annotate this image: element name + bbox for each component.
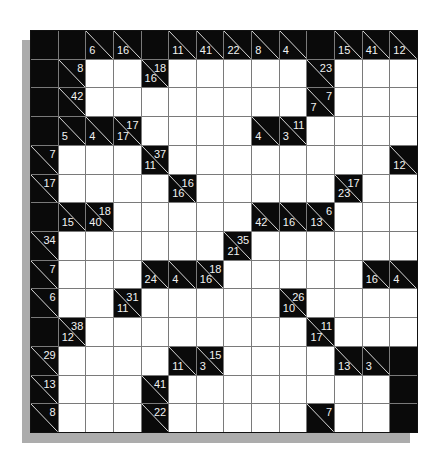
entry-cell[interactable] xyxy=(169,232,196,260)
entry-cell[interactable] xyxy=(169,117,196,145)
entry-cell[interactable] xyxy=(280,261,307,289)
entry-cell[interactable] xyxy=(114,88,141,116)
entry-cell[interactable] xyxy=(59,261,86,289)
entry-cell[interactable] xyxy=(59,146,86,174)
entry-cell[interactable] xyxy=(252,60,279,88)
entry-cell[interactable] xyxy=(390,117,417,145)
entry-cell[interactable] xyxy=(197,404,224,432)
entry-cell[interactable] xyxy=(363,60,390,88)
entry-cell[interactable] xyxy=(114,376,141,404)
entry-cell[interactable] xyxy=(114,404,141,432)
entry-cell[interactable] xyxy=(59,232,86,260)
entry-cell[interactable] xyxy=(252,376,279,404)
entry-cell[interactable] xyxy=(390,203,417,231)
entry-cell[interactable] xyxy=(280,376,307,404)
entry-cell[interactable] xyxy=(252,88,279,116)
entry-cell[interactable] xyxy=(307,146,334,174)
entry-cell[interactable] xyxy=(197,175,224,203)
entry-cell[interactable] xyxy=(390,289,417,317)
entry-cell[interactable] xyxy=(114,347,141,375)
entry-cell[interactable] xyxy=(169,318,196,346)
entry-cell[interactable] xyxy=(363,289,390,317)
entry-cell[interactable] xyxy=(335,146,362,174)
entry-cell[interactable] xyxy=(224,146,251,174)
entry-cell[interactable] xyxy=(197,88,224,116)
entry-cell[interactable] xyxy=(307,347,334,375)
entry-cell[interactable] xyxy=(86,146,113,174)
entry-cell[interactable] xyxy=(224,88,251,116)
entry-cell[interactable] xyxy=(224,175,251,203)
entry-cell[interactable] xyxy=(307,289,334,317)
entry-cell[interactable] xyxy=(224,318,251,346)
entry-cell[interactable] xyxy=(224,289,251,317)
entry-cell[interactable] xyxy=(197,60,224,88)
entry-cell[interactable] xyxy=(252,404,279,432)
entry-cell[interactable] xyxy=(390,232,417,260)
entry-cell[interactable] xyxy=(280,404,307,432)
entry-cell[interactable] xyxy=(307,232,334,260)
entry-cell[interactable] xyxy=(363,175,390,203)
entry-cell[interactable] xyxy=(390,88,417,116)
entry-cell[interactable] xyxy=(86,60,113,88)
entry-cell[interactable] xyxy=(307,175,334,203)
entry-cell[interactable] xyxy=(280,146,307,174)
entry-cell[interactable] xyxy=(335,60,362,88)
entry-cell[interactable] xyxy=(142,347,169,375)
entry-cell[interactable] xyxy=(363,404,390,432)
entry-cell[interactable] xyxy=(197,146,224,174)
entry-cell[interactable] xyxy=(86,404,113,432)
entry-cell[interactable] xyxy=(224,261,251,289)
entry-cell[interactable] xyxy=(197,117,224,145)
entry-cell[interactable] xyxy=(280,175,307,203)
entry-cell[interactable] xyxy=(280,347,307,375)
entry-cell[interactable] xyxy=(307,376,334,404)
entry-cell[interactable] xyxy=(224,347,251,375)
entry-cell[interactable] xyxy=(363,376,390,404)
entry-cell[interactable] xyxy=(335,318,362,346)
entry-cell[interactable] xyxy=(252,261,279,289)
entry-cell[interactable] xyxy=(169,376,196,404)
entry-cell[interactable] xyxy=(142,175,169,203)
entry-cell[interactable] xyxy=(59,289,86,317)
entry-cell[interactable] xyxy=(169,88,196,116)
entry-cell[interactable] xyxy=(86,175,113,203)
entry-cell[interactable] xyxy=(335,376,362,404)
entry-cell[interactable] xyxy=(224,404,251,432)
entry-cell[interactable] xyxy=(114,318,141,346)
entry-cell[interactable] xyxy=(224,203,251,231)
entry-cell[interactable] xyxy=(114,60,141,88)
entry-cell[interactable] xyxy=(224,117,251,145)
entry-cell[interactable] xyxy=(335,117,362,145)
entry-cell[interactable] xyxy=(224,376,251,404)
entry-cell[interactable] xyxy=(142,203,169,231)
entry-cell[interactable] xyxy=(335,232,362,260)
entry-cell[interactable] xyxy=(252,232,279,260)
entry-cell[interactable] xyxy=(280,60,307,88)
entry-cell[interactable] xyxy=(169,289,196,317)
entry-cell[interactable] xyxy=(252,146,279,174)
entry-cell[interactable] xyxy=(363,117,390,145)
entry-cell[interactable] xyxy=(86,318,113,346)
entry-cell[interactable] xyxy=(390,318,417,346)
entry-cell[interactable] xyxy=(169,60,196,88)
entry-cell[interactable] xyxy=(363,232,390,260)
entry-cell[interactable] xyxy=(169,404,196,432)
entry-cell[interactable] xyxy=(59,404,86,432)
entry-cell[interactable] xyxy=(114,203,141,231)
entry-cell[interactable] xyxy=(252,347,279,375)
entry-cell[interactable] xyxy=(390,175,417,203)
entry-cell[interactable] xyxy=(197,376,224,404)
entry-cell[interactable] xyxy=(307,117,334,145)
entry-cell[interactable] xyxy=(363,146,390,174)
entry-cell[interactable] xyxy=(59,175,86,203)
entry-cell[interactable] xyxy=(335,289,362,317)
entry-cell[interactable] xyxy=(307,261,334,289)
entry-cell[interactable] xyxy=(335,88,362,116)
entry-cell[interactable] xyxy=(335,404,362,432)
entry-cell[interactable] xyxy=(114,146,141,174)
entry-cell[interactable] xyxy=(142,117,169,145)
entry-cell[interactable] xyxy=(197,203,224,231)
entry-cell[interactable] xyxy=(86,347,113,375)
entry-cell[interactable] xyxy=(114,261,141,289)
entry-cell[interactable] xyxy=(86,376,113,404)
